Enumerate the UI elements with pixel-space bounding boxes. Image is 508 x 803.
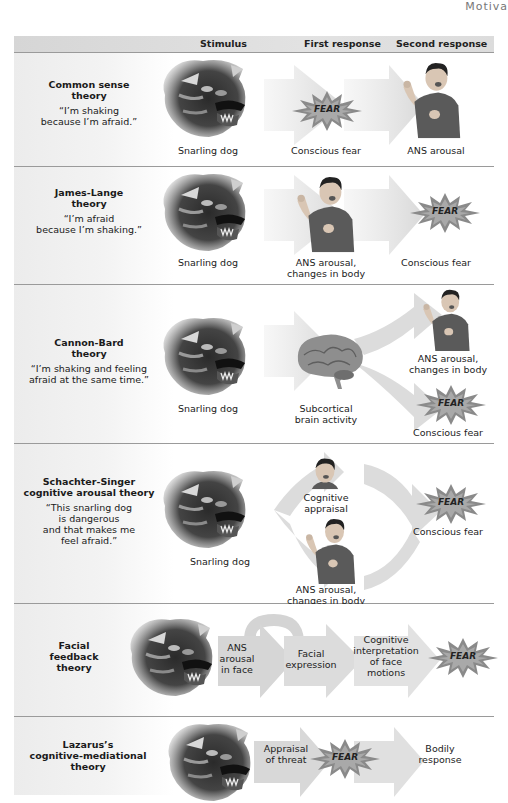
theory-name: Common sensetheory bbox=[14, 79, 164, 101]
theory-label: James-Langetheory “I’m afraidbecause I’m… bbox=[14, 187, 164, 235]
stimulus-caption: Snarling dog bbox=[172, 556, 268, 567]
step-caption: Facialexpression bbox=[276, 648, 346, 670]
theory-quote: “I’m afraidbecause I’m shaking.” bbox=[14, 213, 164, 235]
stimulus-caption: Snarling dog bbox=[160, 403, 256, 414]
theory-name: Schachter-Singercognitive arousal theory bbox=[14, 476, 164, 498]
first-response-caption: ANS arousal,changes in body bbox=[276, 257, 376, 279]
row-lazarus: Lazarus’scognitive-mediationaltheory App… bbox=[14, 717, 494, 795]
row-cannon-bard: Cannon-Bardtheory “I’m shaking and feeli… bbox=[14, 285, 494, 444]
row-common-sense: Common sensetheory “I’m shakingbecause I… bbox=[14, 53, 494, 167]
theory-quote: “I’m shaking and feelingafraid at the sa… bbox=[14, 363, 164, 385]
fear-burst-icon: FEAR bbox=[310, 739, 380, 779]
person-icon bbox=[298, 516, 360, 584]
second-response-caption: Conscious fear bbox=[386, 257, 486, 268]
first-response-b-caption: ANS arousal,changes in body bbox=[276, 584, 376, 606]
snarling-dog-icon bbox=[164, 719, 256, 803]
fear-burst-icon: FEAR bbox=[410, 193, 480, 233]
step-caption: ANSarousalin face bbox=[214, 642, 260, 675]
second-response-b-caption: Conscious fear bbox=[398, 427, 498, 438]
table-header: Stimulus First response Second response bbox=[14, 36, 494, 53]
theory-name: Facialfeedbacktheory bbox=[14, 640, 134, 673]
theory-label: Facialfeedbacktheory bbox=[14, 640, 134, 673]
snarling-dog-icon bbox=[126, 614, 218, 698]
theory-label: Cannon-Bardtheory “I’m shaking and feeli… bbox=[14, 337, 164, 385]
theory-label: Schachter-Singercognitive arousal theory… bbox=[14, 476, 164, 546]
second-response-caption: ANS arousal bbox=[386, 145, 486, 156]
stimulus-caption: Snarling dog bbox=[160, 145, 256, 156]
first-response-caption: Subcorticalbrain activity bbox=[276, 403, 376, 425]
person-icon bbox=[416, 287, 474, 351]
snarling-dog-icon bbox=[159, 169, 251, 253]
snarling-dog-icon bbox=[159, 313, 251, 397]
row-james-lange: James-Langetheory “I’m afraidbecause I’m… bbox=[14, 167, 494, 285]
step-caption: Cognitiveinterpretationof facemotions bbox=[346, 634, 426, 678]
row-schachter-singer: Schachter-Singercognitive arousal theory… bbox=[14, 444, 494, 604]
header-first-response: First response bbox=[304, 38, 381, 49]
theory-name: Lazarus’scognitive-mediationaltheory bbox=[14, 739, 162, 772]
theory-name: James-Langetheory bbox=[14, 187, 164, 209]
person-icon bbox=[292, 171, 356, 255]
running-head: Motiva bbox=[465, 0, 508, 13]
header-second-response: Second response bbox=[396, 38, 487, 49]
second-response-a-caption: ANS arousal,changes in body bbox=[398, 353, 498, 375]
theory-label: Lazarus’scognitive-mediationaltheory bbox=[14, 739, 162, 772]
fear-burst-icon: FEAR bbox=[416, 484, 486, 524]
row-facial-feedback: Facialfeedbacktheory ANSarousalin face F… bbox=[14, 604, 494, 717]
first-response-a-caption: Cognitiveappraisal bbox=[276, 492, 376, 514]
theory-label: Common sensetheory “I’m shakingbecause I… bbox=[14, 79, 164, 127]
second-response-caption: Conscious fear bbox=[398, 526, 498, 537]
snarling-dog-icon bbox=[159, 55, 251, 139]
step-caption: Appraisalof threat bbox=[256, 743, 316, 765]
person-icon bbox=[398, 57, 462, 141]
header-stimulus: Stimulus bbox=[200, 38, 247, 49]
step-caption: Bodilyresponse bbox=[410, 743, 470, 765]
brain-icon bbox=[294, 331, 366, 391]
person-head-icon bbox=[306, 456, 344, 490]
fear-burst-icon: FEAR bbox=[292, 91, 362, 131]
theory-quote: “This snarling dogis dangerousand that m… bbox=[14, 502, 164, 546]
snarling-dog-icon bbox=[159, 466, 251, 550]
stimulus-caption: Snarling dog bbox=[160, 257, 256, 268]
fear-burst-icon: FEAR bbox=[428, 638, 498, 678]
theory-name: Cannon-Bardtheory bbox=[14, 337, 164, 359]
theory-quote: “I’m shakingbecause I’m afraid.” bbox=[14, 105, 164, 127]
first-response-caption: Conscious fear bbox=[276, 145, 376, 156]
fear-burst-icon: FEAR bbox=[416, 385, 486, 425]
